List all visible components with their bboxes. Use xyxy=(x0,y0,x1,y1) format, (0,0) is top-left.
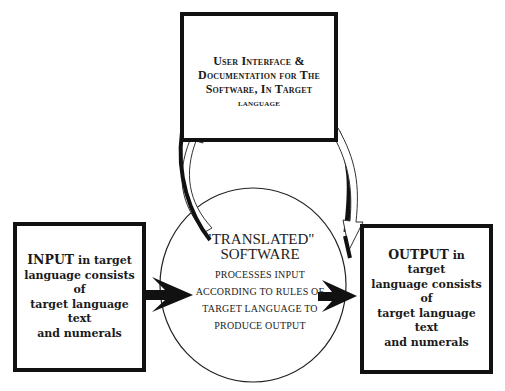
top-box-line: Documentation for The xyxy=(198,68,320,82)
top-box-line: User Interface & xyxy=(198,54,320,68)
output-lead: OUTPUT xyxy=(388,247,449,262)
input-box-text: INPUT in target language consists of tar… xyxy=(17,253,142,341)
translated-software-circle-text: "TRANSLATED" SOFTWARE PROCESSES INPUT AC… xyxy=(175,232,345,334)
input-line: target language text xyxy=(21,298,138,327)
circle-body-line: PROCESSES INPUT xyxy=(175,266,345,283)
input-line: and numerals xyxy=(21,327,138,342)
diagram-canvas: User Interface & Documentation for The S… xyxy=(0,0,505,391)
circle-body: PROCESSES INPUT ACCORDING TO RULES OF TA… xyxy=(175,266,345,334)
output-line: and numerals xyxy=(368,336,485,351)
output-line: language consists of xyxy=(368,278,485,307)
top-box-line: Software, In Target xyxy=(198,82,320,96)
circle-body-line: ACCORDING TO RULES OF xyxy=(175,283,345,300)
circle-title-line: "TRANSLATED" xyxy=(175,232,345,247)
circle-title-line: SOFTWARE xyxy=(175,247,345,262)
output-box: OUTPUT in target language consists of ta… xyxy=(360,224,493,374)
circle-body-line: TARGET LANGUAGE TO xyxy=(175,300,345,317)
output-line: target language text xyxy=(368,307,485,336)
user-interface-documentation-text: User Interface & Documentation for The S… xyxy=(198,54,320,110)
user-interface-documentation-box: User Interface & Documentation for The S… xyxy=(180,12,338,142)
top-box-line: language xyxy=(198,96,320,110)
input-lead: INPUT xyxy=(27,252,74,267)
input-line: language consists of xyxy=(21,269,138,298)
input-box: INPUT in target language consists of tar… xyxy=(13,222,146,372)
input-line: in target xyxy=(74,254,132,267)
output-box-text: OUTPUT in target language consists of ta… xyxy=(364,248,489,351)
circle-body-line: PRODUCE OUTPUT xyxy=(175,317,345,334)
